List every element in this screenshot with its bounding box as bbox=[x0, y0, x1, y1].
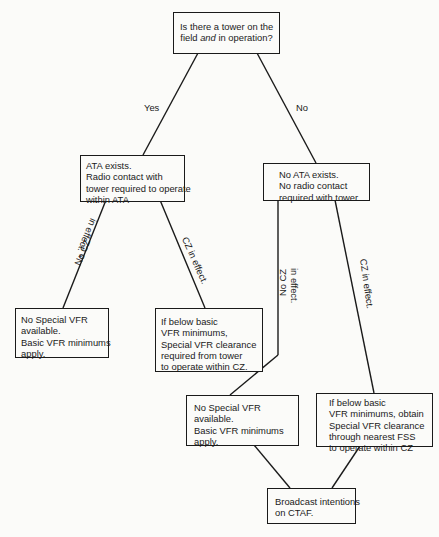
connector-lines bbox=[0, 0, 439, 537]
question-line-2: field and in operation? bbox=[180, 32, 273, 43]
ata-exists-box: ATA exists. Radio contact with tower req… bbox=[80, 155, 185, 202]
broadcast-box: Broadcast intentions on CTAF. bbox=[267, 488, 356, 524]
no-ata-box: No ATA exists. No radio contact required… bbox=[263, 163, 370, 201]
no-special-vfr-box-right: No Special VFR available. Basic VFR mini… bbox=[186, 395, 299, 446]
special-vfr-tower-box: If below basic VFR minimums, Special VFR… bbox=[155, 308, 263, 372]
special-vfr-fss-box: If below basic VFR minimums, obtain Spec… bbox=[316, 393, 433, 447]
question-line-1: Is there a tower on the bbox=[180, 21, 273, 32]
question-box: Is there a tower on the field and in ope… bbox=[173, 12, 280, 54]
no-label: No bbox=[296, 102, 308, 113]
no-special-vfr-box-left: No Special VFR available. Basic VFR mini… bbox=[15, 308, 109, 358]
right-no-cz-label-2: in effect. bbox=[289, 268, 300, 303]
yes-label: Yes bbox=[144, 102, 159, 113]
right-no-cz-label-1: No CZ bbox=[277, 269, 288, 296]
